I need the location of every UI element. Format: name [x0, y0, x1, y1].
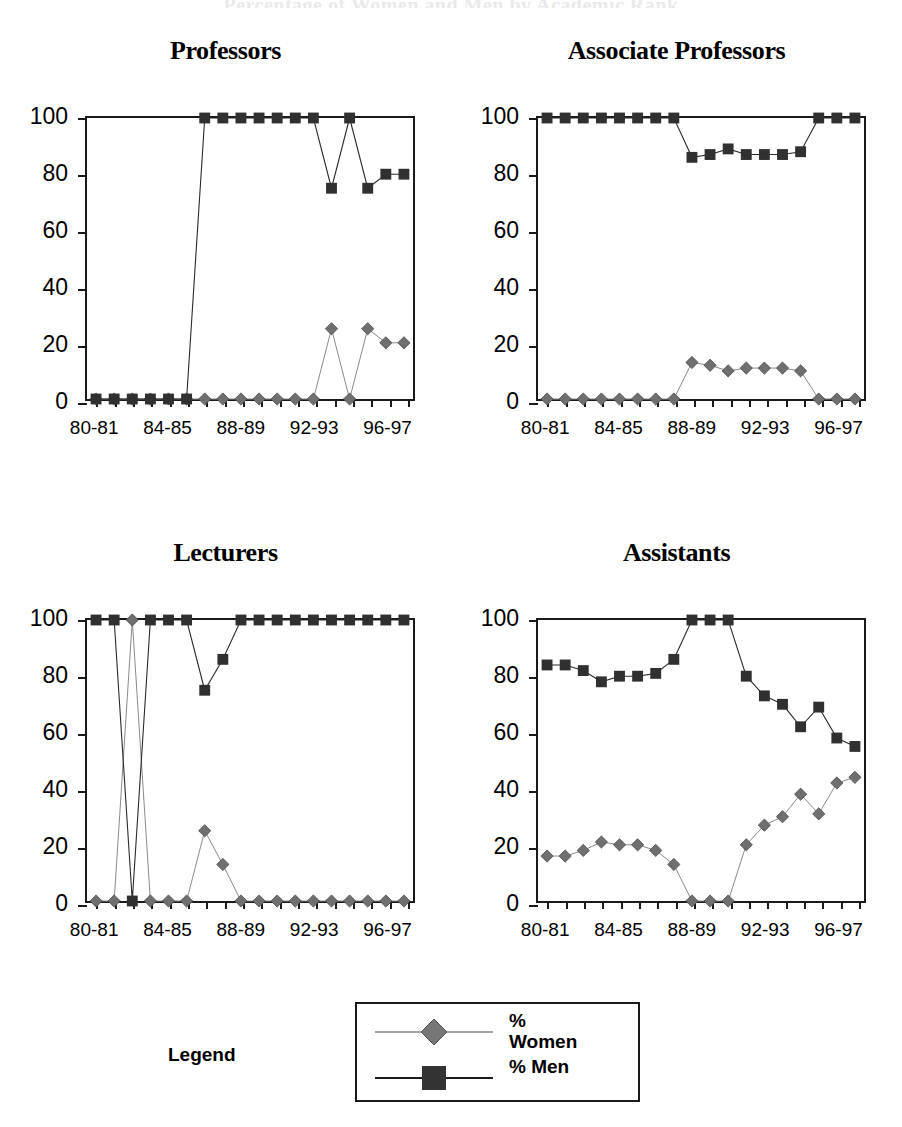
series-men — [542, 113, 861, 163]
data-point-women — [199, 825, 211, 837]
data-point-men — [308, 113, 319, 124]
x-tick-mark — [584, 901, 586, 909]
men-line-sample — [375, 1056, 493, 1100]
data-point-men — [596, 113, 607, 124]
data-point-men — [759, 149, 770, 160]
x-tick-label: 96-97 — [363, 919, 412, 941]
y-tick-label: 60 — [42, 217, 68, 244]
women-line-sample — [375, 1010, 493, 1054]
data-point-women — [668, 858, 680, 870]
x-tick-mark — [390, 399, 392, 407]
data-point-men — [705, 149, 716, 160]
data-point-men — [560, 113, 571, 124]
data-point-men — [236, 615, 247, 626]
x-tick-label: 84-85 — [594, 417, 643, 439]
data-point-men — [109, 615, 120, 626]
data-point-women — [144, 895, 156, 907]
data-point-men — [687, 615, 698, 626]
data-point-men — [560, 660, 571, 671]
data-point-men — [632, 671, 643, 682]
data-point-women — [686, 356, 698, 368]
chart-title: Associate Professors — [451, 36, 902, 66]
x-tick-mark — [371, 399, 373, 407]
series-women — [541, 356, 861, 405]
data-point-men — [850, 113, 861, 124]
data-point-women — [199, 393, 211, 405]
data-point-women — [722, 365, 734, 377]
x-tick-mark — [566, 901, 568, 909]
y-tick-mark — [78, 734, 87, 736]
data-point-men — [614, 671, 625, 682]
y-tick-label: 60 — [493, 719, 519, 746]
data-point-women — [740, 362, 752, 374]
data-point-women — [595, 836, 607, 848]
y-axis-labels: 020406080100 — [451, 618, 529, 903]
data-point-women — [253, 895, 265, 907]
y-tick-mark — [529, 905, 538, 907]
y-tick-mark — [78, 403, 87, 405]
y-tick-label: 80 — [493, 662, 519, 689]
x-tick-label: 84-85 — [143, 919, 192, 941]
y-tick-mark — [529, 734, 538, 736]
data-point-women — [668, 393, 680, 405]
x-tick-mark — [712, 399, 714, 407]
y-axis-labels: 020406080100 — [0, 618, 78, 903]
series-men — [91, 615, 410, 907]
data-point-men — [831, 733, 842, 744]
data-point-women — [217, 858, 229, 870]
x-tick-mark — [335, 399, 337, 407]
x-tick-label: 88-89 — [668, 919, 717, 941]
data-point-men — [199, 685, 210, 696]
y-tick-mark — [529, 175, 538, 177]
data-point-women — [217, 393, 229, 405]
data-point-men — [362, 183, 373, 194]
data-point-men — [308, 615, 319, 626]
x-tick-mark — [859, 901, 861, 909]
x-tick-mark — [547, 901, 549, 909]
data-point-men — [181, 615, 192, 626]
data-point-women — [686, 895, 698, 907]
y-axis-labels: 020406080100 — [0, 116, 78, 401]
data-point-men — [109, 394, 120, 405]
y-tick-label: 100 — [30, 103, 68, 130]
data-point-women — [631, 393, 643, 405]
x-axis-labels: 80-8184-8588-8992-9396-97 — [85, 913, 415, 953]
data-point-men — [380, 615, 391, 626]
figure-root: Percentage of Women and Men by Academic … — [0, 0, 902, 1127]
data-point-men — [813, 702, 824, 713]
data-point-men — [795, 146, 806, 157]
plot-area — [85, 618, 415, 903]
data-point-women — [849, 771, 861, 783]
x-tick-label: 92-93 — [741, 417, 790, 439]
x-tick-label: 84-85 — [143, 417, 192, 439]
data-point-men — [127, 896, 138, 907]
data-point-women — [108, 895, 120, 907]
data-point-men — [380, 169, 391, 180]
y-tick-mark — [78, 905, 87, 907]
data-point-men — [290, 615, 301, 626]
data-point-men — [127, 394, 138, 405]
data-point-women — [559, 850, 571, 862]
y-tick-mark — [529, 346, 538, 348]
data-point-men — [145, 394, 156, 405]
x-tick-label: 92-93 — [741, 919, 790, 941]
data-point-men — [326, 183, 337, 194]
y-tick-label: 20 — [493, 833, 519, 860]
x-tick-mark — [602, 901, 604, 909]
data-point-women — [235, 393, 247, 405]
y-tick-mark — [529, 118, 538, 120]
data-point-men — [668, 113, 679, 124]
data-point-men — [687, 152, 698, 163]
data-point-men — [632, 113, 643, 124]
data-point-men — [399, 615, 410, 626]
y-axis-labels: 020406080100 — [451, 116, 529, 401]
series-men — [542, 615, 861, 752]
series-men — [91, 113, 410, 405]
legend-row-women: %Women — [357, 1010, 642, 1054]
plot-area — [85, 116, 415, 401]
y-tick-mark — [78, 289, 87, 291]
x-tick-mark — [225, 901, 227, 909]
chart-panel-assistants: Assistants02040608010080-8184-8588-8992-… — [451, 530, 902, 1010]
chart-panel-lecturers: Lecturers02040608010080-8184-8588-8992-9… — [0, 530, 451, 1010]
x-tick-mark — [731, 399, 733, 407]
